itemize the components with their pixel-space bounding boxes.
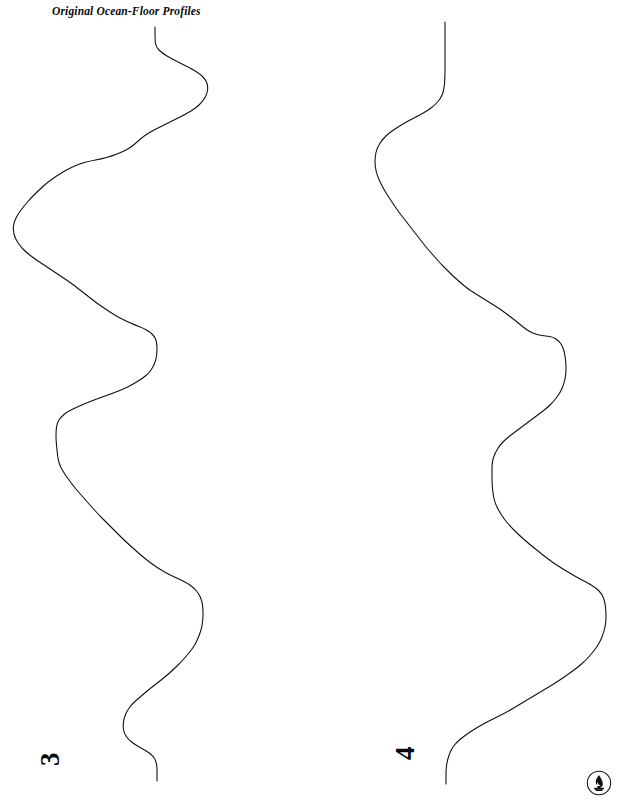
profile-label-4: 4 [392, 747, 419, 761]
profile-trace-3 [13, 27, 207, 781]
ocean-floor-profiles-plot [0, 0, 623, 804]
profile-label-3: 3 [37, 753, 64, 767]
figure-page: Original Ocean-Floor Profiles 3 4 [0, 0, 623, 804]
profile-trace-4 [375, 22, 606, 784]
flame-torch-logo-icon [586, 770, 612, 796]
